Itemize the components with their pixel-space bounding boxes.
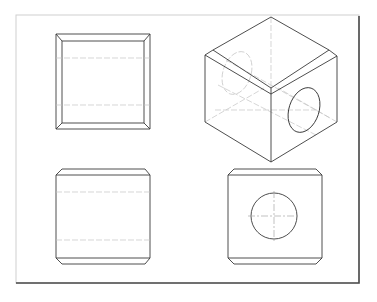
drawing-sheet [0, 0, 377, 302]
drawing-frame [16, 15, 359, 283]
